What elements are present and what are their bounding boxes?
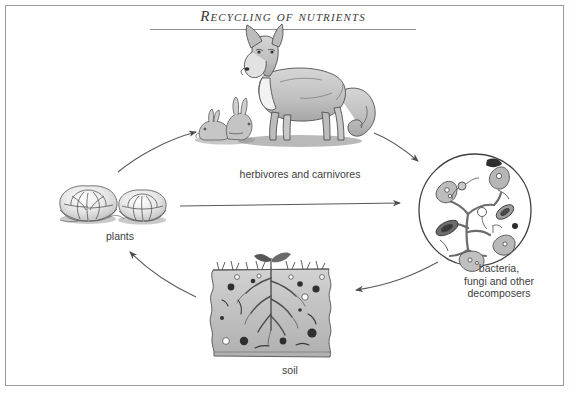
caption-soil: soil [255, 364, 325, 377]
caption-animals: herbivores and carnivores [200, 168, 400, 181]
soil-illustration [210, 252, 331, 357]
arrow-plants-to-microbes [180, 203, 400, 206]
caption-microbes: bacteria, fungi and other decomposers [440, 262, 558, 300]
arrow-soil-to-plants [130, 252, 196, 297]
animals-illustration [195, 24, 375, 147]
diagram-page: Recycling of nutrients [0, 0, 571, 393]
arrow-microbes-to-soil [356, 262, 438, 290]
arrow-plants-to-animals [118, 132, 196, 172]
plants-illustration [60, 186, 166, 225]
caption-plants: plants [85, 230, 155, 243]
arrow-animals-to-microbes [374, 133, 418, 161]
diagram-artwork [0, 0, 571, 393]
microbes-illustration [419, 154, 531, 271]
